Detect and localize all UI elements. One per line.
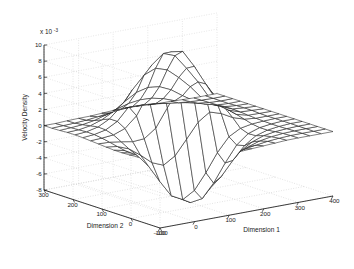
- axis-tick-label: 6: [38, 73, 42, 80]
- axis-tick-label: Dimension 1: [243, 226, 280, 233]
- axis-tick-label: 0: [129, 220, 133, 227]
- axis-tick-label: -6: [36, 170, 42, 177]
- axis-tick-label: 0: [38, 122, 42, 129]
- axis-tick-label: 100: [225, 216, 236, 223]
- axis-tick-label: 200: [260, 210, 271, 217]
- axis-tick-label: 4: [38, 90, 42, 97]
- axis-tick-label: 8: [38, 57, 42, 64]
- axis-tick-label: Dimension 2: [87, 222, 124, 229]
- axis-tick-label: 2: [38, 106, 42, 113]
- axis-tick-label: 100: [96, 210, 107, 217]
- axis-tick-label: -2: [36, 138, 42, 145]
- axis-tick-label: -100: [153, 229, 166, 236]
- surface-mesh: [44, 51, 333, 202]
- axis-tick-label: Velocity Density: [21, 94, 29, 141]
- axis-tick-label: 300: [38, 191, 49, 198]
- axis-tick-label: x 10 -3: [40, 28, 58, 35]
- axis-tick-label: 400: [329, 197, 340, 204]
- axis-tick-label: 0: [194, 223, 198, 230]
- axis-tick-label: 200: [67, 201, 78, 208]
- surface-plot-svg: 1086420-2-4-6-8-100010020030040030020010…: [0, 0, 354, 269]
- axis-tick-label: -4: [36, 154, 42, 161]
- axis-tick-label: 10: [35, 41, 42, 48]
- figure-canvas: 1086420-2-4-6-8-100010020030040030020010…: [0, 0, 354, 269]
- axis-tick-label: 300: [295, 204, 306, 211]
